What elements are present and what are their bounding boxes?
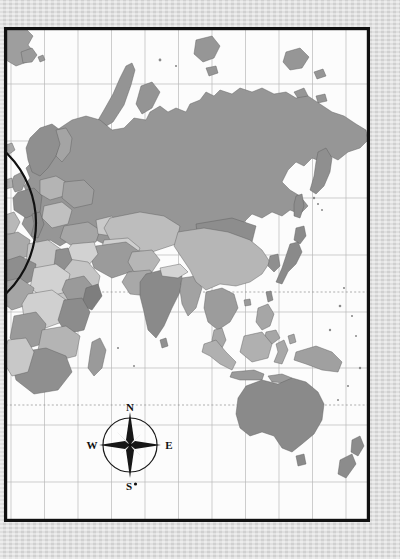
pacific-islet (347, 385, 349, 387)
pacific-islet (343, 287, 345, 289)
hainan[interactable] (244, 299, 251, 306)
world-map[interactable]: N S W E (0, 0, 400, 559)
arctic-islet (159, 59, 162, 62)
arctic-islet (175, 65, 177, 67)
compass-label-north: N (126, 401, 134, 413)
kuril-islet (313, 197, 315, 199)
kuril-islet (321, 209, 323, 211)
pacific-islet (329, 329, 331, 331)
pacific-islet (337, 399, 339, 401)
kuril-islet (317, 203, 319, 205)
compass-label-east: E (165, 439, 172, 451)
compass-south-dot (134, 482, 137, 485)
compass-label-west: W (87, 439, 98, 451)
pacific-islet (355, 335, 357, 337)
indian-ocean-islet (133, 365, 135, 367)
indian-ocean-islet (117, 347, 119, 349)
compass-center (128, 443, 132, 447)
compass-label-south: S (126, 480, 132, 492)
tasmania[interactable] (296, 454, 306, 466)
pacific-islet (351, 315, 353, 317)
map-page: N S W E (0, 0, 400, 559)
pacific-islet (339, 305, 342, 308)
pacific-islet (359, 367, 361, 369)
